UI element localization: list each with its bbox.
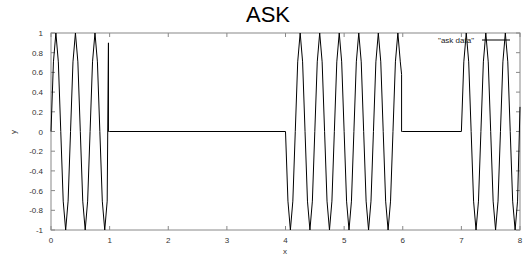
x-tick-label: 4 bbox=[283, 236, 288, 245]
y-tick-label: -0.2 bbox=[29, 147, 43, 156]
legend-label: "ask data" bbox=[438, 36, 474, 45]
y-tick-label: 0.8 bbox=[32, 49, 44, 58]
y-tick-label: -1 bbox=[36, 226, 44, 235]
x-tick-label: 1 bbox=[107, 236, 112, 245]
y-tick-label: -0.8 bbox=[29, 206, 43, 215]
ask-line-chart: ASK 012345678 -1-0.8-0.6-0.4-0.200.20.40… bbox=[0, 0, 532, 268]
ask-data-line bbox=[51, 33, 520, 230]
x-tick-label: 7 bbox=[459, 236, 464, 245]
x-tick-label: 3 bbox=[225, 236, 230, 245]
x-axis-label: x bbox=[283, 247, 287, 256]
y-axis-label: y bbox=[9, 130, 18, 134]
y-tick-label: -0.4 bbox=[29, 167, 43, 176]
x-tick-label: 6 bbox=[401, 236, 406, 245]
x-tick-label: 2 bbox=[166, 236, 171, 245]
x-tick-label: 8 bbox=[518, 236, 523, 245]
legend: "ask data" bbox=[438, 36, 510, 45]
y-tick-label: 0.2 bbox=[32, 108, 44, 117]
y-tick-label: 0 bbox=[39, 128, 44, 137]
y-tick-label: 0.6 bbox=[32, 68, 44, 77]
y-tick-label: 0.4 bbox=[32, 88, 44, 97]
y-tick-label: 1 bbox=[39, 29, 44, 38]
x-tick-label: 5 bbox=[342, 236, 347, 245]
chart-title: ASK bbox=[246, 2, 290, 27]
x-tick-label: 0 bbox=[49, 236, 54, 245]
y-tick-label: -0.6 bbox=[29, 187, 43, 196]
